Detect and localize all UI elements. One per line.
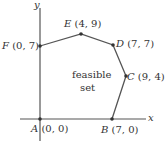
- point-f-name: F: [2, 40, 9, 51]
- point-e: [79, 32, 83, 36]
- region-label-line1: feasible: [72, 70, 111, 80]
- point-b-label: B (7, 0): [101, 125, 138, 135]
- point-d-label: D (7, 7): [116, 39, 154, 49]
- point-b: [110, 117, 114, 121]
- point-e-label: E (4, 9): [64, 19, 101, 29]
- point-d-name: D: [116, 38, 124, 49]
- y-axis-label: y: [34, 0, 40, 10]
- point-d-coords: (7, 7): [127, 38, 154, 49]
- point-a-coords: (0, 0): [41, 123, 68, 134]
- point-c-label: C (9, 4): [127, 72, 165, 82]
- point-a: [38, 117, 42, 121]
- point-c-coords: (9, 4): [138, 71, 165, 82]
- point-e-name: E: [64, 18, 71, 29]
- point-a-label: A (0, 0): [31, 124, 68, 134]
- point-b-name: B: [101, 124, 108, 135]
- point-b-coords: (7, 0): [112, 124, 139, 135]
- point-d: [111, 43, 115, 47]
- point-f-coords: (0, 7): [12, 40, 39, 51]
- x-axis-label: x: [148, 113, 154, 123]
- feasible-set-diagram: y x feasible set A (0, 0) B (7, 0) C (9,…: [0, 0, 166, 141]
- point-c-name: C: [127, 71, 135, 82]
- region-label-line2: set: [80, 83, 95, 93]
- point-f-label: F (0, 7): [2, 41, 39, 51]
- point-a-name: A: [31, 123, 38, 134]
- point-e-coords: (4, 9): [75, 18, 102, 29]
